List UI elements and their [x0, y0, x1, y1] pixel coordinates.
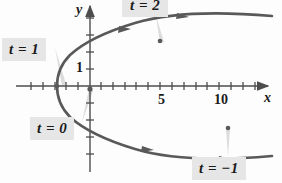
- x-axis-label: x: [264, 90, 271, 106]
- annotation-t-equals-1: t = 1: [2, 38, 46, 61]
- y-tick-label-1: 1: [76, 60, 83, 76]
- annotation-t-equals-0: t = 0: [30, 117, 74, 140]
- leader-tm1: [226, 129, 230, 156]
- direction-arrows: [118, 13, 231, 162]
- curve-upper-branch: [57, 13, 272, 86]
- point-t1: [55, 84, 60, 89]
- x-axis: [16, 82, 268, 90]
- figure-canvas: x y 5 10 1 t = 1 t = 0 t = 2 t = −1: [0, 0, 282, 183]
- leader-t0: [82, 89, 93, 122]
- y-axis-label: y: [76, 2, 82, 18]
- parameter-points: [55, 39, 231, 131]
- annotation-t-equals-minus-1: t = −1: [192, 157, 246, 180]
- point-t2: [158, 39, 163, 44]
- annotation-t-equals-2: t = 2: [122, 0, 168, 17]
- point-tm1: [226, 126, 231, 131]
- point-t0: [87, 86, 92, 91]
- x-tick-label-5: 5: [158, 92, 165, 108]
- parametric-curve-plot: [0, 0, 282, 183]
- x-tick-label-10: 10: [214, 92, 228, 108]
